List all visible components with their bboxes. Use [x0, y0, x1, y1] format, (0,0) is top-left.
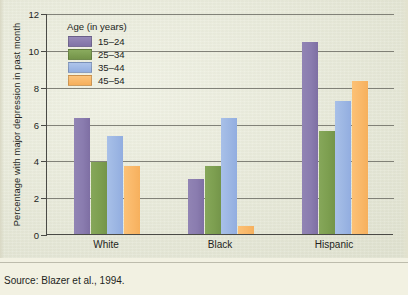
- y-axis-tick-label: 2: [17, 194, 39, 204]
- bar-group: [188, 13, 254, 234]
- x-axis-tick-label: Black: [160, 239, 280, 250]
- figure-root: Percentage with major depression in past…: [0, 0, 408, 295]
- bar: [74, 118, 90, 234]
- page-edge-shadow-left: [0, 0, 4, 258]
- legend-item-label: 25–34: [98, 49, 125, 60]
- legend-swatch: [68, 75, 92, 86]
- legend-swatch: [68, 49, 92, 60]
- bar: [188, 179, 204, 234]
- bar: [221, 118, 237, 234]
- y-axis-tick-label: 4: [17, 157, 39, 167]
- legend-item: 25–34: [63, 48, 127, 60]
- legend-swatch: [68, 36, 92, 47]
- y-axis-tick-label: 0: [17, 231, 39, 241]
- y-axis-tick-label: 6: [17, 121, 39, 131]
- bar-group: [302, 13, 368, 234]
- legend-item-label: 45–54: [98, 75, 125, 86]
- legend-item: 15–24: [63, 35, 127, 47]
- divider-rule: [0, 262, 408, 263]
- bar: [352, 81, 368, 234]
- bar: [238, 226, 254, 234]
- legend-title: Age (in years): [67, 21, 127, 32]
- source-note: Source: Blazer et al., 1994.: [4, 275, 125, 286]
- legend-swatch: [68, 62, 92, 73]
- x-axis-tick-label: Hispanic: [274, 239, 394, 250]
- bar: [302, 42, 318, 234]
- legend-entries: 15–2425–3435–4445–54: [63, 35, 127, 86]
- y-axis-tick: [41, 235, 47, 236]
- bar: [319, 131, 335, 234]
- legend-item: 45–54: [63, 74, 127, 86]
- bar: [91, 162, 107, 234]
- bar: [205, 166, 221, 234]
- legend-item-label: 15–24: [98, 36, 125, 47]
- page-edge-shadow-right: [402, 0, 408, 258]
- y-axis-tick-label: 12: [17, 10, 39, 20]
- bar: [335, 101, 351, 234]
- legend-item: 35–44: [63, 61, 127, 73]
- y-axis-tick-label: 10: [17, 47, 39, 57]
- legend: Age (in years) 15–2425–3435–4445–54: [63, 21, 127, 87]
- bar: [107, 136, 123, 234]
- y-axis-tick-label: 8: [17, 84, 39, 94]
- bar: [124, 166, 140, 234]
- legend-item-label: 35–44: [98, 62, 125, 73]
- x-axis-tick-label: White: [46, 239, 166, 250]
